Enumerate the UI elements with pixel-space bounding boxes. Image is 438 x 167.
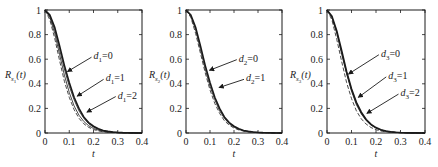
y-tick-label: 0.8 bbox=[170, 29, 183, 40]
y-tick-label: 0.6 bbox=[170, 54, 183, 65]
y-tick-label: 0.4 bbox=[170, 78, 183, 89]
series-d2-1 bbox=[186, 10, 282, 133]
series-d1-0 bbox=[45, 10, 142, 133]
annotation-arrow bbox=[210, 60, 237, 71]
y-axis-label: Rs2(t) bbox=[148, 69, 170, 84]
annotation-arrow bbox=[68, 57, 92, 71]
annotation-label: d1=2 bbox=[118, 90, 137, 104]
y-tick-label: 0.8 bbox=[29, 29, 42, 40]
panel-1: 00.10.20.30.400.20.40.60.81tRs1(t)d1=0d1… bbox=[4, 5, 148, 160]
y-tick-label: 0.4 bbox=[29, 78, 42, 89]
y-tick-label: 0.6 bbox=[311, 54, 324, 65]
y-tick-label: 0.6 bbox=[29, 54, 42, 65]
series-reference bbox=[186, 10, 282, 133]
x-tick-label: 0.2 bbox=[370, 136, 383, 147]
series-d3-2 bbox=[327, 10, 425, 133]
x-tick-label: 0 bbox=[325, 136, 330, 147]
axes-frame bbox=[327, 10, 425, 133]
figure: 00.10.20.30.400.20.40.60.81tRs1(t)d1=0d1… bbox=[0, 0, 438, 167]
annotation-label: d3=1 bbox=[388, 70, 407, 84]
x-axis-label: t bbox=[233, 148, 236, 159]
x-axis-label: t bbox=[92, 148, 95, 159]
y-tick-label: 0.4 bbox=[311, 78, 324, 89]
x-tick-label: 0.3 bbox=[112, 136, 125, 147]
x-tick-label: 0.1 bbox=[204, 136, 217, 147]
series-d3-1 bbox=[327, 10, 425, 133]
annotation-arrow bbox=[219, 79, 244, 87]
y-tick-label: 0 bbox=[177, 128, 182, 139]
annotation-label: d1=0 bbox=[94, 50, 113, 64]
x-tick-label: 0 bbox=[184, 136, 189, 147]
series-d3-0 bbox=[327, 10, 425, 133]
annotation-arrow bbox=[77, 79, 103, 96]
y-tick-label: 0.2 bbox=[311, 103, 324, 114]
x-tick-label: 0.1 bbox=[345, 136, 358, 147]
annotation-label: d2=0 bbox=[239, 53, 258, 67]
x-tick-label: 0.3 bbox=[394, 136, 407, 147]
annotation-arrow bbox=[87, 97, 116, 113]
chart-canvas: 00.10.20.30.400.20.40.60.81tRs1(t)d1=0d1… bbox=[0, 0, 438, 167]
y-axis-label: Rs1(t) bbox=[4, 69, 26, 84]
y-tick-label: 1 bbox=[177, 5, 182, 16]
x-tick-label: 0 bbox=[43, 136, 48, 147]
x-tick-label: 0.2 bbox=[228, 136, 241, 147]
annotation-arrow bbox=[358, 77, 386, 97]
series-d2-0 bbox=[186, 10, 282, 133]
annotation-label: d3=0 bbox=[381, 48, 400, 62]
x-tick-label: 0.4 bbox=[136, 136, 149, 147]
x-axis-label: t bbox=[375, 148, 378, 159]
y-tick-label: 0 bbox=[318, 128, 323, 139]
axes-frame bbox=[186, 10, 282, 133]
x-tick-label: 0.4 bbox=[276, 136, 289, 147]
y-tick-label: 1 bbox=[318, 5, 323, 16]
annotation-label: d3=2 bbox=[401, 87, 420, 101]
panel-3: 00.10.20.30.400.20.40.60.81tRs3(t)d3=0d3… bbox=[289, 5, 431, 160]
y-tick-label: 0 bbox=[36, 128, 41, 139]
y-tick-label: 1 bbox=[36, 5, 41, 16]
x-tick-label: 0.4 bbox=[419, 136, 432, 147]
annotation-label: d2=1 bbox=[246, 72, 265, 86]
annotation-arrow bbox=[349, 55, 379, 74]
y-tick-label: 0.2 bbox=[170, 103, 183, 114]
x-tick-label: 0.1 bbox=[63, 136, 76, 147]
annotation-arrow bbox=[367, 94, 399, 113]
series-reference bbox=[45, 10, 142, 133]
series-d1-1 bbox=[45, 10, 142, 133]
annotation-label: d1=1 bbox=[106, 72, 125, 86]
series-d1-2 bbox=[45, 10, 142, 133]
y-axis-label: Rs3(t) bbox=[289, 69, 311, 84]
y-tick-label: 0.8 bbox=[311, 29, 324, 40]
y-tick-label: 0.2 bbox=[29, 103, 42, 114]
panel-2: 00.10.20.30.400.20.40.60.81tRs2(t)d2=0d2… bbox=[148, 5, 288, 160]
x-tick-label: 0.3 bbox=[252, 136, 265, 147]
x-tick-label: 0.2 bbox=[87, 136, 100, 147]
series-reference bbox=[327, 10, 425, 133]
axes-frame bbox=[45, 10, 142, 133]
